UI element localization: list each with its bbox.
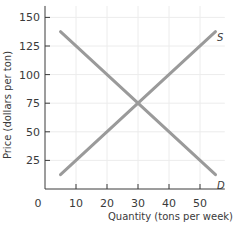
supply-curve-label: S — [217, 32, 224, 43]
y-tick-label: 100 — [19, 69, 40, 82]
x-axis-title: Quantity (tons per week) — [108, 211, 233, 222]
x-tick-label: 50 — [193, 197, 207, 210]
x-tick-label: 40 — [162, 197, 176, 210]
y-tick-label: 150 — [19, 11, 40, 24]
y-tick-label: 125 — [19, 40, 40, 53]
y-tick-label: 25 — [26, 154, 40, 167]
x-tick-label: 10 — [69, 197, 83, 210]
x-tick-label: 20 — [100, 197, 114, 210]
supply-demand-chart: 1020304050255075100125150 Price (dollars… — [0, 0, 239, 236]
y-tick-label: 75 — [26, 97, 40, 110]
demand-curve-label: D — [217, 180, 225, 191]
y-tick-label: 50 — [26, 126, 40, 139]
origin-label: 0 — [35, 197, 42, 210]
axis-ticks: 1020304050255075100125150 — [19, 11, 207, 210]
axes — [45, 6, 225, 189]
y-axis-title: Price (dollars per ton) — [2, 51, 13, 159]
x-tick-label: 30 — [131, 197, 145, 210]
grid-lines — [45, 6, 225, 189]
